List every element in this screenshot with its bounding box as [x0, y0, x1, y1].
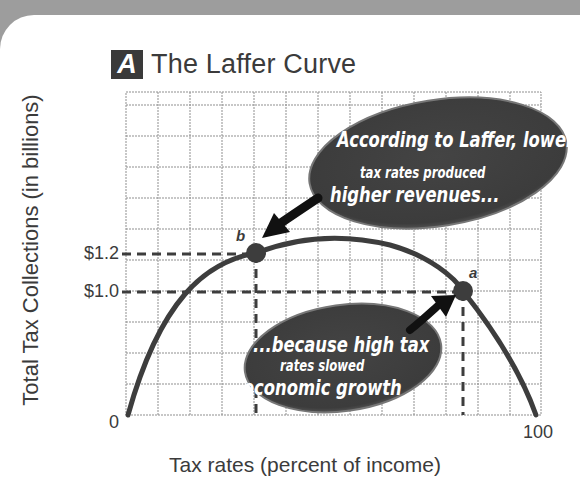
- y-tick-1-0: $1.0: [84, 281, 119, 302]
- bottom-bubble-line1: ...because high tax: [253, 335, 429, 356]
- top-bubble-line3: higher revenues...: [330, 185, 499, 206]
- bottom-bubble-line2: rates slowed: [280, 359, 364, 374]
- top-bubble-line2: tax rates produced: [360, 166, 485, 181]
- point-b-label: b: [236, 227, 245, 244]
- point-a: [453, 281, 473, 301]
- x-tick-100: 100: [523, 422, 553, 443]
- point-a-label: a: [469, 264, 477, 281]
- point-b: [246, 243, 266, 263]
- y-tick-1-2: $1.2: [84, 243, 119, 264]
- bottom-bubble-line3: economic growth: [243, 378, 402, 399]
- x-tick-0: 0: [109, 412, 119, 433]
- top-bubble-line1: According to Laffer, lower: [337, 130, 574, 151]
- arrow-to-b: [278, 198, 318, 225]
